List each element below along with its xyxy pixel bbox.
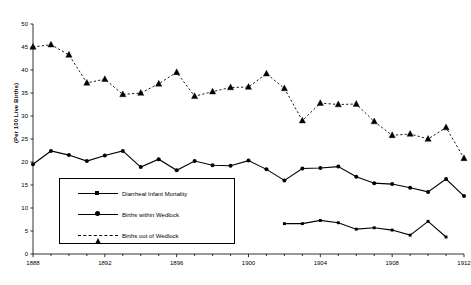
data-point-marker — [391, 229, 394, 232]
series-line — [284, 220, 446, 237]
data-point-marker — [443, 124, 449, 130]
data-point-marker — [335, 101, 341, 107]
data-point-marker — [390, 182, 394, 186]
x-tick-label: 1892 — [85, 260, 125, 266]
data-point-marker — [121, 149, 125, 153]
legend-item[interactable]: Births out of Wedlock — [78, 231, 179, 240]
data-point-marker — [103, 154, 107, 158]
data-point-marker — [247, 159, 251, 163]
legend-marker-icon — [78, 231, 118, 240]
data-point-marker — [84, 79, 90, 85]
data-point-marker — [445, 236, 448, 239]
data-point-marker — [211, 163, 215, 167]
y-tick-label: 15 — [0, 182, 28, 188]
legend-item-label: Births within Wedlock — [122, 212, 179, 218]
series-line — [33, 45, 464, 159]
data-point-marker — [336, 165, 340, 169]
data-point-marker — [354, 175, 358, 179]
data-point-marker — [444, 177, 448, 181]
data-point-marker — [48, 41, 54, 47]
y-tick-label: 5 — [0, 228, 28, 234]
data-point-marker — [461, 155, 467, 161]
y-tick-label: 45 — [0, 44, 28, 50]
y-tick-label: 40 — [0, 67, 28, 73]
data-point-marker — [227, 84, 233, 90]
legend-marker-icon — [78, 210, 118, 219]
data-point-marker — [318, 166, 322, 170]
data-point-marker — [283, 222, 286, 225]
data-point-marker — [209, 88, 215, 94]
x-tick-label: 1904 — [300, 260, 340, 266]
data-point-marker — [373, 226, 376, 229]
data-point-marker — [175, 168, 179, 172]
data-point-marker — [300, 166, 304, 170]
chart-container: (Per 100 Live Births) 051015202530354045… — [0, 0, 471, 285]
data-point-marker — [264, 167, 268, 171]
data-point-marker — [409, 234, 412, 237]
y-tick-label: 20 — [0, 159, 28, 165]
legend-item-label: Diarrheal Infant Mortality — [122, 191, 187, 197]
data-point-marker — [281, 85, 287, 91]
legend-item[interactable]: Diarrheal Infant Mortality — [78, 189, 187, 198]
x-tick-label: 1896 — [157, 260, 197, 266]
data-point-marker — [408, 186, 412, 190]
x-tick-label: 1888 — [13, 260, 53, 266]
data-point-marker — [139, 165, 143, 169]
data-point-marker — [372, 181, 376, 185]
data-point-marker — [427, 220, 430, 223]
data-point-marker — [355, 228, 358, 231]
data-point-marker — [229, 164, 233, 168]
data-point-marker — [263, 70, 269, 76]
data-point-marker — [245, 84, 251, 90]
y-tick-label: 35 — [0, 90, 28, 96]
data-point-marker — [353, 101, 359, 107]
data-point-marker — [174, 69, 180, 75]
data-point-marker — [66, 51, 72, 57]
data-point-marker — [337, 221, 340, 224]
data-point-marker — [156, 80, 162, 86]
data-point-marker — [30, 44, 36, 50]
data-point-marker — [67, 153, 71, 157]
chart-legend: Diarrheal Infant MortalityBirths within … — [59, 178, 235, 244]
data-point-marker — [407, 130, 413, 136]
legend-item-label: Births out of Wedlock — [122, 233, 179, 239]
data-point-marker — [157, 157, 161, 161]
data-point-marker — [426, 190, 430, 194]
data-point-marker — [282, 178, 286, 182]
y-tick-label: 10 — [0, 205, 28, 211]
data-point-marker — [138, 90, 144, 96]
data-point-marker — [102, 76, 108, 82]
y-tick-label: 25 — [0, 136, 28, 142]
data-point-marker — [389, 132, 395, 138]
data-point-marker — [301, 222, 304, 225]
y-tick-label: 50 — [0, 21, 28, 27]
y-tick-label: 0 — [0, 251, 28, 257]
data-point-marker — [193, 159, 197, 163]
y-tick-label: 30 — [0, 113, 28, 119]
data-point-marker — [317, 100, 323, 106]
data-point-marker — [49, 149, 53, 153]
data-point-marker — [85, 159, 89, 163]
data-point-marker — [319, 219, 322, 222]
x-tick-label: 1912 — [444, 260, 471, 266]
data-point-marker — [462, 194, 466, 198]
legend-marker-icon — [78, 189, 118, 198]
data-point-marker — [31, 162, 35, 166]
legend-item[interactable]: Births within Wedlock — [78, 210, 179, 219]
x-tick-label: 1900 — [229, 260, 269, 266]
x-tick-label: 1908 — [372, 260, 412, 266]
data-point-marker — [425, 136, 431, 142]
